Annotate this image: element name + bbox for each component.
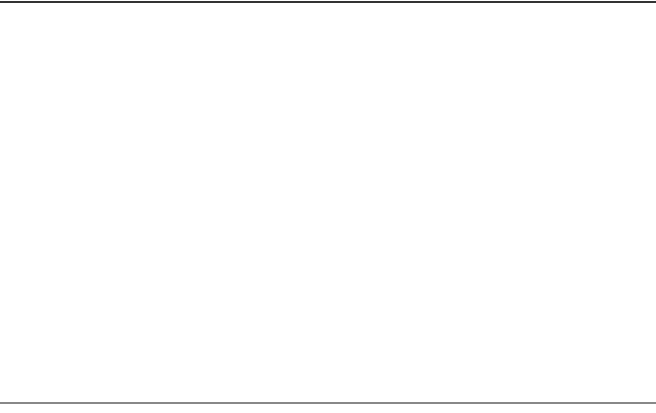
population-pyramids	[0, 0, 656, 413]
